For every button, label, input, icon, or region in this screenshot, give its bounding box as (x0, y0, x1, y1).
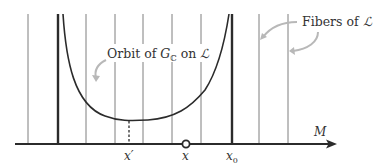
orbit-fibers-diagram: Orbit of Gℂ on ℒ Fibers of ℒ M x′ x x0 (0, 0, 373, 167)
fibers (28, 14, 288, 144)
fibers-annotation-arrow-icon-2 (293, 32, 318, 51)
orbit-annotation-arrow-icon (95, 60, 106, 78)
label-x-prime: x′ (124, 149, 134, 163)
label-x: x (182, 149, 189, 163)
axis-label-m: M (313, 125, 327, 139)
orbit-label: Orbit of Gℂ on ℒ (107, 46, 210, 63)
fibers-label: Fibers of ℒ (302, 14, 373, 29)
label-x0: x0 (226, 149, 238, 165)
point-x-marker (182, 140, 189, 147)
orbit-curve (63, 14, 229, 121)
fibers-annotation-arrow-icon-1 (263, 22, 297, 37)
